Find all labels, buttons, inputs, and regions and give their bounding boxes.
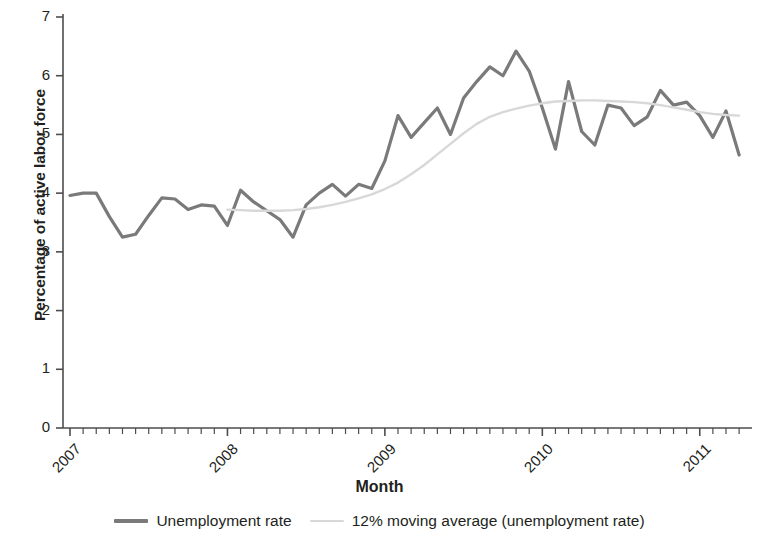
series-line-unemployment-rate [70, 51, 739, 237]
legend-swatch-line-icon [114, 519, 148, 523]
axes-group [63, 14, 752, 428]
legend-label: 12% moving average (unemployment rate) [352, 512, 645, 530]
data-series-group [70, 51, 739, 237]
y-axis-tick-label: 0 [24, 418, 50, 435]
line-chart-plot [0, 0, 759, 470]
y-axis-tick-label: 1 [24, 359, 50, 376]
legend-item-moving-average: 12% moving average (unemployment rate) [310, 512, 645, 530]
chart-container: Percentage of active labor force 0123456… [0, 0, 759, 548]
series-line-moving-average [227, 100, 739, 210]
y-axis-tick-label: 7 [24, 7, 50, 24]
y-axis-tick-label: 3 [24, 242, 50, 259]
y-axis-tick-label: 2 [24, 301, 50, 318]
axis-ticks [56, 17, 739, 436]
y-axis-tick-label: 5 [24, 124, 50, 141]
y-axis-tick-label: 4 [24, 183, 50, 200]
legend-label: Unemployment rate [156, 512, 291, 530]
legend-swatch-line-icon [310, 520, 344, 522]
legend-item-unemployment-rate: Unemployment rate [114, 512, 291, 530]
y-axis-tick-label: 6 [24, 66, 50, 83]
x-axis-title: Month [0, 478, 759, 496]
chart-legend: Unemployment rate 12% moving average (un… [0, 512, 759, 530]
